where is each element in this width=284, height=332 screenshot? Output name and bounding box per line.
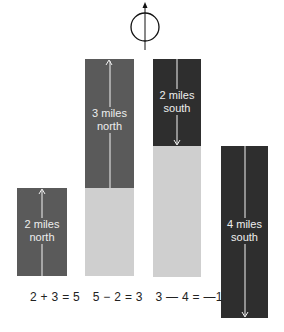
bar-3-miles-north: 3 milesnorth [85,59,134,188]
arrowhead-down-icon [173,139,181,146]
equations: 2 + 3 = 5 5 − 2 = 3 3 — 4 = —1 [30,290,232,304]
equation-2: 5 − 2 = 3 [93,290,143,304]
bar-label: 4 milessouth [221,218,268,244]
arrowhead-up-icon [38,188,46,195]
bar-2-miles-north: 2 milesnorth [17,188,67,276]
bar-2-miles-south: 2 milessouth [153,59,201,146]
bar-ghost-result [153,146,201,277]
bar-ghost-base [85,188,134,276]
bar-label: 3 milesnorth [85,107,134,133]
arrowhead-up-icon [105,59,113,66]
north-arrow-compass-icon [125,0,165,54]
bar-label: 2 milessouth [153,89,201,115]
equation-1: 2 + 3 = 5 [30,290,80,304]
bar-label: 2 milesnorth [17,218,67,244]
equation-3: 3 — 4 = —1 [155,290,222,304]
arrowhead-down-icon [241,311,249,318]
